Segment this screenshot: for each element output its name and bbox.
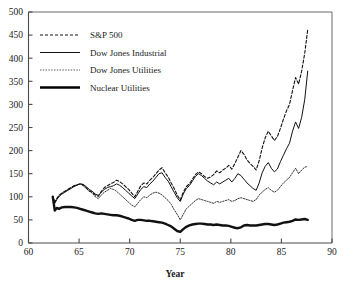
chart-legend: S&P 500Dow Jones IndustrialDow Jones Uti… [40,30,167,92]
x-tick-label: 70 [125,247,135,257]
y-tick-label: 250 [9,123,24,133]
x-tick-label: 60 [24,247,34,257]
x-tick-label: 75 [176,247,186,257]
x-tick-label: 65 [74,247,84,257]
y-tick-label: 0 [18,238,23,248]
y-tick-label: 50 [14,215,24,225]
line-chart: 050100150200250300350400450500 606570758… [0,0,343,290]
x-axis-tick-labels: 60657075808590 [24,247,337,257]
x-tick-label: 90 [327,247,337,257]
y-tick-label: 300 [9,100,24,110]
chart-container: 050100150200250300350400450500 606570758… [0,0,343,290]
legend-label: Nuclear Utilities [90,83,150,93]
y-tick-label: 200 [9,146,24,156]
y-tick-label: 400 [9,54,24,64]
x-axis-title: Year [166,269,186,279]
legend-label: Dow Jones Industrial [90,48,167,58]
y-tick-label: 350 [9,77,24,87]
x-tick-label: 80 [226,247,236,257]
legend-label: Dow Jones Utilities [90,65,161,75]
y-axis-tick-labels: 050100150200250300350400450500 [9,7,24,248]
y-tick-label: 150 [9,169,24,179]
series-line [53,197,308,232]
x-tick-label: 85 [277,247,287,257]
y-tick-label: 450 [9,30,24,40]
legend-label: S&P 500 [90,30,123,40]
y-tick-label: 500 [9,7,24,17]
y-tick-label: 100 [9,192,24,202]
data-series-group [53,30,308,232]
